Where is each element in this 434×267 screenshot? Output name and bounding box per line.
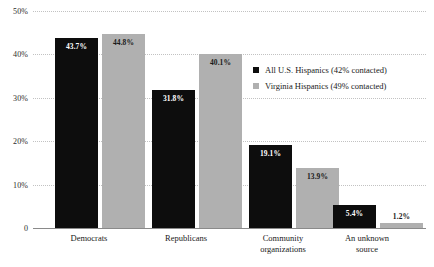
- x-category-label-democrats: Democrats: [33, 233, 145, 244]
- bar-group-democrats: 43.7% 44.8%: [55, 11, 145, 228]
- bar-value-label: 19.1%: [260, 149, 281, 158]
- legend-item-label: All U.S. Hispanics (42% contacted): [265, 65, 387, 75]
- bar-democrats-virginia: 44.8%: [102, 34, 145, 229]
- bar-democrats-all-us: 43.7%: [55, 38, 98, 228]
- x-category-label-unknown-source: An unknown source: [311, 233, 423, 254]
- legend-item-virginia-hispanics: Virginia Hispanics (49% contacted): [253, 79, 387, 93]
- bar-unknown-virginia: 1.2%: [380, 223, 423, 228]
- bar-value-label: 43.7%: [66, 42, 87, 51]
- y-tick-label: 20%: [13, 137, 28, 146]
- bar-republicans-all-us: 31.8%: [152, 90, 195, 228]
- bar-group-republicans: 31.8% 40.1%: [152, 11, 242, 228]
- bar-community-all-us: 19.1%: [249, 145, 292, 228]
- bar-chart: 50% 40% 30% 20% 10% 0 43.7% 44.8% 31.8%: [0, 0, 434, 267]
- y-tick-label: 50%: [13, 7, 28, 16]
- bar-group-community-organizations: 19.1% 13.9%: [249, 11, 339, 228]
- y-tick-label: 10%: [13, 180, 28, 189]
- plot-area: 43.7% 44.8% 31.8% 40.1% 19.1% 13.9%: [33, 11, 426, 228]
- chart-legend: All U.S. Hispanics (42% contacted) Virgi…: [253, 63, 387, 95]
- y-tick-label: 0: [24, 224, 28, 233]
- axis-baseline: [33, 228, 426, 229]
- bar-value-label: 44.8%: [113, 38, 134, 47]
- bar-value-label: 31.8%: [163, 94, 184, 103]
- legend-item-label: Virginia Hispanics (49% contacted): [265, 81, 386, 91]
- bar-value-label: 1.2%: [393, 212, 410, 221]
- x-category-label-republicans: Republicans: [130, 233, 242, 244]
- bar-value-label: 13.9%: [307, 172, 328, 181]
- legend-swatch-icon: [253, 67, 259, 73]
- bar-value-label: 40.1%: [210, 58, 231, 67]
- y-tick-label: 30%: [13, 93, 28, 102]
- y-tick-label: 40%: [13, 50, 28, 59]
- legend-item-all-us-hispanics: All U.S. Hispanics (42% contacted): [253, 63, 387, 77]
- legend-swatch-icon: [253, 83, 259, 89]
- y-axis: 50% 40% 30% 20% 10% 0: [0, 0, 30, 267]
- bar-group-unknown-source: 5.4% 1.2%: [333, 11, 423, 228]
- bar-value-label: 5.4%: [346, 209, 363, 218]
- bar-unknown-all-us: 5.4%: [333, 205, 376, 228]
- bar-republicans-virginia: 40.1%: [199, 54, 242, 228]
